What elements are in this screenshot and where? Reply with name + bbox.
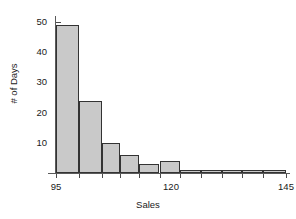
x-tick-label: 95	[51, 181, 62, 192]
histogram-bar	[180, 170, 201, 173]
y-tick-label: 50	[36, 17, 47, 27]
y-tick-label: 30	[36, 78, 47, 88]
x-tick-mark	[102, 174, 103, 178]
x-tick-mark	[139, 174, 140, 178]
histogram-bar	[160, 161, 181, 173]
histogram-bar	[79, 101, 102, 173]
x-tick-mark	[56, 174, 57, 178]
histogram-bar	[222, 170, 243, 173]
x-tick-mark	[180, 174, 181, 178]
x-tick-mark	[263, 174, 264, 178]
histogram-bar	[242, 170, 263, 173]
x-tick-mark	[222, 174, 223, 178]
y-axis-label: # of Days	[8, 49, 19, 119]
x-tick-mark	[160, 174, 161, 178]
histogram-chart: # of Days 1020304050 95120145 Sales	[0, 0, 296, 219]
y-tick-mark	[56, 22, 61, 23]
x-tick-label: 145	[278, 181, 294, 192]
histogram-bar	[56, 25, 79, 173]
x-tick-mark	[242, 174, 243, 178]
x-tick-mark	[286, 174, 287, 178]
histogram-bar	[102, 143, 120, 173]
x-axis-line	[48, 173, 290, 174]
histogram-bar	[139, 164, 160, 173]
y-tick-label: 40	[36, 47, 47, 57]
histogram-bar	[120, 155, 138, 173]
x-axis-label: Sales	[0, 199, 296, 210]
histogram-bar	[263, 170, 286, 173]
x-tick-mark	[120, 174, 121, 178]
y-tick-label: 10	[36, 138, 47, 148]
x-tick-mark	[79, 174, 80, 178]
histogram-bar	[201, 170, 222, 173]
y-tick-label: 20	[36, 108, 47, 118]
x-tick-mark	[201, 174, 202, 178]
x-tick-label: 120	[163, 181, 179, 192]
